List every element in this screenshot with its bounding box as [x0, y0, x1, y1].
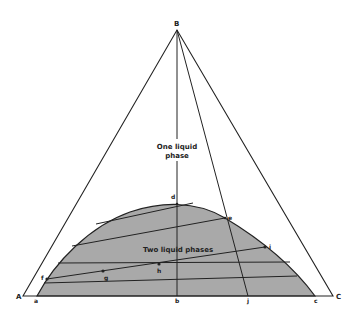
label-g: g [104, 274, 108, 282]
label-f: f [41, 274, 44, 281]
point-f [45, 277, 48, 280]
point-d [176, 203, 179, 206]
ternary-phase-diagram: B A C a b j c d e i h g f One liquid pha… [0, 0, 353, 317]
point-g [101, 269, 104, 272]
point-i [263, 245, 266, 248]
label-j: j [246, 297, 249, 305]
label-b: b [175, 297, 180, 304]
label-c: c [314, 297, 318, 304]
label-a: a [34, 297, 38, 304]
point-h [157, 262, 160, 265]
point-e [224, 217, 227, 220]
label-i: i [269, 243, 271, 250]
label-h: h [157, 267, 161, 274]
label-C: C [336, 293, 341, 301]
label-B: B [174, 20, 179, 28]
label-e: e [228, 214, 232, 221]
label-A: A [16, 293, 22, 301]
one-phase-label-line1: One liquid [157, 143, 197, 151]
label-d: d [171, 193, 175, 200]
two-phase-label: Two liquid phases [143, 246, 213, 254]
one-phase-label-line2: phase [165, 152, 189, 160]
